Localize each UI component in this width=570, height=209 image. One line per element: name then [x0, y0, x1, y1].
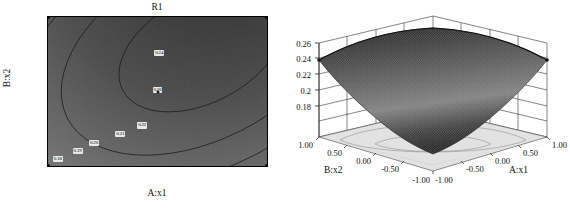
design-corner-point-tr [265, 16, 268, 19]
surface-xtick-4: 1.00 [552, 140, 567, 150]
contour-label-6: 0.18 [53, 155, 63, 161]
contour-plot-area: 0.24 0.26 0.22 0.21 0.20 0.19 0.18 1.00 … [47, 16, 268, 167]
contour-label-3: 0.21 [115, 131, 125, 137]
surface-ytick-2: 0.00 [356, 156, 371, 166]
contour-plot-title: R1 [151, 3, 162, 13]
contour-label-5: 0.19 [73, 148, 83, 154]
surface-ytick-4: -1.00 [412, 175, 430, 185]
contour-label-0: 0.24 [154, 50, 164, 56]
design-center-point [156, 90, 159, 93]
surface-ztick-0: 0.26 [296, 39, 311, 49]
surface-plot-panel: R1 0.26 0.24 0.22 0.2 0.18 1.00 0.50 0.0… [285, 0, 570, 209]
contour-label-4: 0.20 [89, 140, 99, 146]
surface-y-axis-label: B:x2 [324, 165, 342, 175]
contour-plot-panel: R1 B:x2 A:x1 [0, 0, 285, 209]
surface-ztick-4: 0.18 [296, 102, 311, 112]
surface-ytick-3: -0.50 [381, 164, 399, 174]
contour-y-axis-label: B:x2 [2, 69, 12, 87]
surface-ztick-1: 0.24 [296, 54, 311, 64]
figure-container: R1 B:x2 A:x1 [0, 0, 570, 209]
surface-x-axis-label: A:x1 [509, 165, 528, 175]
surface-xtick-3: 0.50 [523, 148, 538, 158]
surface-xtick-1: -0.50 [466, 164, 484, 174]
contour-x-axis-label: A:x1 [148, 188, 167, 198]
surface-ytick-1: 0.50 [327, 148, 342, 158]
surface-xtick-0: -1.00 [435, 175, 453, 185]
surface-ztick-2: 0.22 [296, 70, 311, 80]
surface-corner-right [545, 58, 549, 62]
surface-xtick-2: 0.00 [495, 156, 510, 166]
surface-ztick-3: 0.2 [300, 86, 311, 96]
contour-label-2: 0.22 [137, 122, 147, 128]
surface-ytick-0: 1.00 [298, 140, 313, 150]
